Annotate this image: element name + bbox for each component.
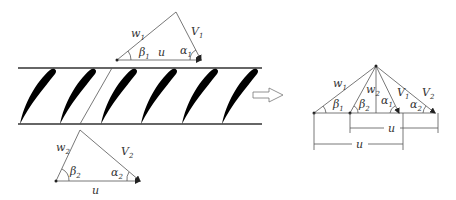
- alpha2-arc: [127, 172, 129, 181]
- inlet-velocity-triangle: w1 V1 β1 u α1: [116, 12, 204, 62]
- beta2-label: β2: [69, 165, 81, 180]
- apex-dot: [375, 65, 378, 68]
- transition-arrow-icon: [253, 88, 283, 102]
- v1-label: V1: [191, 25, 203, 40]
- beta1-label: β1: [332, 98, 344, 113]
- beta1-arc: [128, 51, 131, 60]
- figure-canvas: w1 V1 β1 u α1 w2 V2 β2 α2 u: [0, 0, 456, 200]
- alpha1-label: α1: [180, 44, 192, 59]
- origin-dot: [116, 59, 119, 62]
- blade-1: [20, 69, 56, 124]
- v1-label: V1: [397, 86, 409, 101]
- blades: [20, 69, 258, 124]
- origin-dot: [55, 180, 58, 183]
- u-upper-label: u: [388, 122, 395, 135]
- beta1-arc: [323, 106, 326, 113]
- blade-cascade: [18, 68, 262, 124]
- combined-velocity-diagram: w1 w2 V1 V2 β1 β2 α1 α2 u u: [313, 65, 439, 152]
- w1-label: w1: [131, 27, 145, 42]
- w2-label: w2: [56, 141, 70, 156]
- upper-u-dimension: u: [350, 122, 438, 135]
- blade-2: [60, 69, 96, 124]
- alpha2-label: α2: [111, 166, 123, 181]
- v2-label: V2: [121, 145, 134, 160]
- w1-label: w1: [333, 77, 347, 92]
- beta2-arc: [354, 106, 358, 113]
- blade-5: [182, 69, 218, 124]
- u-lower-label: u: [356, 138, 363, 151]
- beta2-label: β2: [358, 98, 370, 113]
- alpha2-label: α2: [410, 98, 422, 113]
- w2-label: w2: [366, 83, 380, 98]
- beta1-label: β1: [138, 46, 150, 61]
- v2-label: V2: [422, 86, 435, 101]
- blade-4: [141, 69, 177, 124]
- outlet-velocity-triangle: w2 V2 β2 α2 u: [55, 130, 141, 197]
- alpha2-arc: [423, 106, 426, 113]
- u-label: u: [92, 184, 99, 197]
- beta2-arc: [62, 169, 69, 181]
- lower-u-dimension: u: [314, 138, 403, 151]
- u-label: u: [158, 46, 165, 59]
